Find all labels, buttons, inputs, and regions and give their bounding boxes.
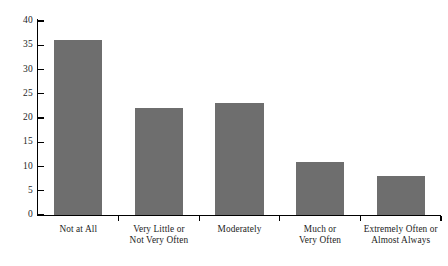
x-axis-tick — [360, 216, 361, 221]
x-axis-tick — [279, 216, 280, 221]
x-axis-tick — [118, 216, 119, 221]
y-axis-tick — [38, 69, 44, 70]
y-axis-tick-label: 35 — [0, 40, 33, 50]
y-axis-tick-label: 10 — [0, 162, 33, 172]
y-axis-tick — [38, 142, 44, 143]
y-axis-tick-label: 20 — [0, 113, 33, 123]
y-axis-tick — [38, 20, 44, 21]
bar — [377, 176, 425, 215]
y-axis-tick — [38, 45, 44, 46]
y-axis-tick — [38, 190, 44, 191]
x-axis-category-label: Moderately — [199, 224, 280, 235]
y-axis-tick-label: 25 — [0, 89, 33, 99]
x-axis-category-label: Very Little or Not Very Often — [119, 224, 200, 247]
bar — [215, 103, 263, 215]
x-axis-category-label: Much or Very Often — [280, 224, 361, 247]
y-axis-tick — [38, 214, 44, 215]
bar — [135, 108, 183, 215]
x-axis-tick — [440, 216, 441, 221]
y-axis-tick-label: 5 — [0, 186, 33, 196]
y-axis-tick-label: 0 — [0, 210, 33, 220]
y-axis-tick-label: 15 — [0, 137, 33, 147]
y-axis-tick — [38, 166, 44, 167]
x-axis-tick — [199, 216, 200, 221]
y-axis-tick-label: 30 — [0, 65, 33, 75]
x-axis-category-label: Extremely Often or Almost Always — [360, 224, 441, 247]
x-axis-category-label: Not at All — [38, 224, 119, 235]
bar-chart: 0510152025303540 Not at AllVery Little o… — [0, 0, 448, 266]
y-axis-tick-label: 40 — [0, 16, 33, 26]
y-axis-tick — [38, 117, 44, 118]
bar — [54, 40, 102, 215]
y-axis-tick — [38, 93, 44, 94]
bar — [296, 162, 344, 215]
